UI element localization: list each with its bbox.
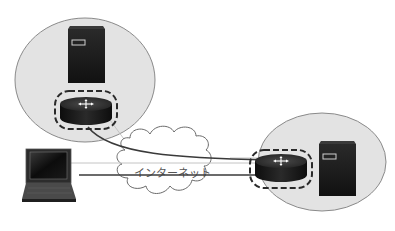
cloud-label: インターネット (134, 167, 211, 180)
site-b-server[interactable] (319, 141, 356, 196)
internet-cloud: インターネット (117, 126, 211, 193)
client-laptop[interactable] (22, 149, 76, 202)
server-icon (68, 29, 105, 83)
server-top (319, 141, 356, 144)
cloud-icon (117, 126, 211, 193)
laptop-icon (22, 149, 76, 202)
server-icon (319, 144, 356, 196)
site-a-server[interactable] (68, 26, 105, 83)
network-diagram: インターネット (0, 0, 395, 231)
router-icon (255, 154, 307, 182)
server-top (68, 26, 105, 29)
router-icon (60, 97, 112, 125)
